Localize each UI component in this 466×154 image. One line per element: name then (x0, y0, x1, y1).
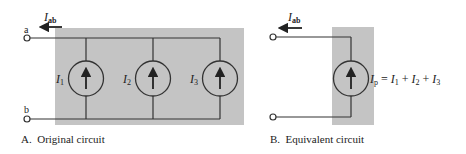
equation-ip: Ip = I1 + I2 + I3 (369, 72, 440, 87)
figure-b-equivalent-circuit: Iab Ip = I1 + I2 + I3 B. Equivalent circ… (270, 10, 440, 145)
terminal-b (24, 116, 30, 122)
terminal-label-a: a (24, 24, 29, 35)
terminal-label-b: b (24, 104, 29, 115)
shaded-region-a (55, 28, 244, 125)
circuit-diagram: Iab a b I1 I2 (0, 0, 466, 154)
caption-b: B. Equivalent circuit (270, 133, 364, 145)
current-indicator-iab-b: Iab (283, 10, 302, 28)
figure-a-original-circuit: Iab a b I1 I2 (21, 10, 244, 145)
caption-a: A. Original circuit (21, 133, 105, 145)
terminal-b-b (270, 114, 276, 120)
current-label-iab-b: Iab (287, 10, 301, 25)
current-label-iab-a: Iab (43, 10, 57, 25)
terminal-a-b (270, 34, 276, 40)
terminal-a (24, 35, 30, 41)
current-indicator-iab-a: Iab (43, 10, 62, 27)
